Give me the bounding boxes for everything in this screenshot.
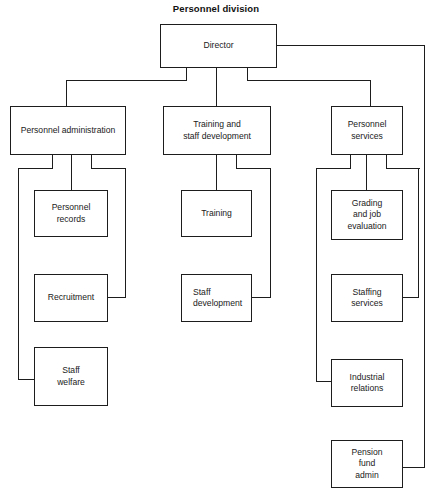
connector-personnel-services-to-staffing-services-entry — [402, 297, 419, 298]
node-director[interactable]: Director — [160, 24, 277, 68]
connector-director-to-pension-fund-entry — [403, 467, 425, 468]
connector-personnel-services-to-staffing-services-stub — [386, 155, 387, 169]
node-staffing-services[interactable]: Staffing services — [331, 274, 403, 322]
connector-director-to-personnel-services-horizontal — [247, 80, 371, 81]
connector-personnel-services-to-industrial-relations-horizontal — [316, 168, 351, 169]
node-staffing-services-label: Staffing services — [332, 287, 402, 310]
node-recruitment-label: Recruitment — [35, 292, 107, 303]
node-grading-and-job-evaluation[interactable]: Grading and job evaluation — [331, 190, 403, 240]
node-industrial-relations-label: Industrial relations — [332, 372, 402, 395]
node-pension-fund-admin-label: Pension fund admin — [332, 447, 402, 481]
node-personnel-administration[interactable]: Personnel administration — [10, 106, 126, 155]
node-personnel-records-label: Personnel records — [35, 202, 107, 225]
node-staff-development[interactable]: Staff development — [181, 274, 252, 322]
connector-personnel-administration-to-recruitment-stub — [91, 155, 92, 169]
node-staff-development-label: Staff development — [182, 287, 251, 310]
connector-director-to-personnel-services-drop — [370, 80, 371, 106]
node-personnel-services[interactable]: Personnel services — [331, 106, 403, 155]
connector-personnel-administration-to-staff-welfare-horizontal — [18, 168, 53, 169]
connector-director-to-personnel-administration-drop — [66, 80, 67, 106]
connector-personnel-administration-to-staff-welfare-rail — [18, 168, 19, 380]
node-industrial-relations[interactable]: Industrial relations — [331, 359, 403, 407]
connector-personnel-administration-to-recruitment-horizontal — [91, 168, 126, 169]
connector-director-to-pension-fund-horizontal — [277, 45, 425, 46]
node-grading-and-job-evaluation-label: Grading and job evaluation — [332, 198, 402, 232]
connector-director-to-pension-fund-rail — [424, 45, 425, 468]
node-training-and-staff-development[interactable]: Training and staff development — [163, 106, 271, 155]
node-personnel-administration-label: Personnel administration — [11, 125, 125, 136]
node-recruitment[interactable]: Recruitment — [34, 274, 108, 322]
node-training-and-staff-development-label: Training and staff development — [164, 119, 270, 142]
connector-personnel-services-to-grading-and-job-evaluation — [366, 155, 367, 191]
connector-director-to-personnel-administration-horizontal — [66, 80, 187, 81]
diagram-title: Personnel division — [0, 3, 432, 14]
connector-personnel-administration-to-recruitment-rail — [125, 168, 126, 298]
node-staff-welfare[interactable]: Staff welfare — [34, 347, 108, 406]
connector-training-dept-to-staff-development-horizontal — [236, 168, 271, 169]
connector-training-dept-to-staff-development-rail — [270, 168, 271, 298]
connector-personnel-administration-to-recruitment-entry — [107, 297, 126, 298]
connector-personnel-administration-to-personnel-records — [71, 155, 72, 191]
connector-personnel-services-to-industrial-relations-stub — [350, 155, 351, 169]
node-training[interactable]: Training — [181, 190, 252, 237]
connector-training-dept-to-training — [216, 155, 217, 191]
connector-training-dept-to-staff-development-entry — [251, 297, 271, 298]
connector-director-to-training-and-staff-development — [216, 68, 217, 106]
node-training-label: Training — [182, 208, 251, 219]
node-staff-welfare-label: Staff welfare — [35, 365, 107, 388]
org-chart-diagram: Personnel division Director — [0, 0, 432, 499]
connector-personnel-services-to-staffing-services-horizontal — [386, 168, 420, 169]
connector-personnel-services-to-industrial-relations-rail — [316, 168, 317, 382]
connector-personnel-administration-to-staff-welfare-stub — [52, 155, 53, 169]
node-personnel-records[interactable]: Personnel records — [34, 190, 108, 237]
node-pension-fund-admin[interactable]: Pension fund admin — [331, 440, 403, 488]
connector-personnel-services-to-staffing-services-rail — [418, 168, 419, 298]
connector-personnel-services-to-industrial-relations-entry — [316, 381, 332, 382]
node-personnel-services-label: Personnel services — [332, 119, 402, 142]
connector-personnel-administration-to-staff-welfare-entry — [18, 379, 35, 380]
connector-training-dept-to-staff-development-stub — [236, 155, 237, 169]
node-director-label: Director — [161, 40, 276, 51]
